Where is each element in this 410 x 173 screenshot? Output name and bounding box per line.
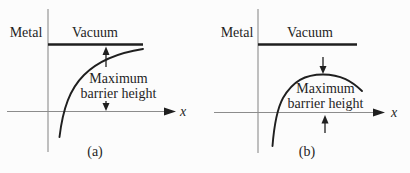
panel-b-x-axis-label: x: [390, 105, 398, 120]
panel-a-down-arrowhead-icon: [103, 103, 110, 111]
panel-b-annotation-line2: barrier height: [288, 96, 364, 111]
panel-b-caption: (b): [299, 144, 316, 160]
panel-a-annotation-line2: barrier height: [81, 86, 157, 101]
panel-b-annotation-line1: Maximum: [296, 81, 354, 96]
panel-b-peak-down-arrowhead-icon: [320, 66, 327, 74]
panel-b-vacuum-label: Vacuum: [287, 25, 333, 40]
panel-b-x-axis-arrowhead-icon: [373, 109, 385, 117]
panel-a-x-axis-arrowhead-icon: [164, 108, 176, 116]
panel-b-metal-label: Metal: [221, 25, 254, 40]
panel-a-x-axis-label: x: [179, 104, 187, 119]
barrier-height-figure: Metal Vacuum Maximum barrier height x (a…: [0, 0, 410, 173]
panel-b-axis-up-arrowhead-icon: [322, 115, 329, 124]
panel-a-annotation-line1: Maximum: [89, 71, 147, 86]
panel-a-up-arrowhead-icon: [103, 47, 110, 56]
panel-b: Metal Vacuum Maximum barrier height x (b…: [205, 0, 410, 173]
panel-a-caption: (a): [87, 144, 103, 160]
panel-a: Metal Vacuum Maximum barrier height x (a…: [0, 0, 205, 173]
panel-a-vacuum-label: Vacuum: [72, 25, 118, 40]
panel-a-metal-label: Metal: [10, 25, 43, 40]
